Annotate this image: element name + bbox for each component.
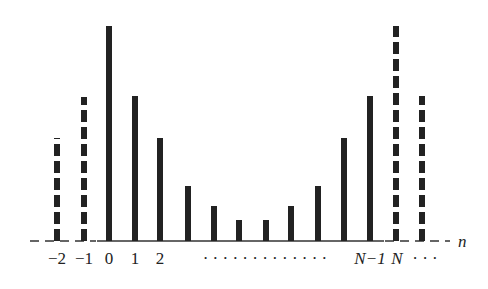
tick-label: · · · · · · · · · · · · · bbox=[203, 249, 328, 268]
axis-label-n: n bbox=[458, 232, 467, 251]
tick-label: 0 bbox=[105, 249, 114, 268]
periodic-sequence-diagram: −2−1012· · · · · · · · · · · · ·N−1N· · … bbox=[0, 0, 488, 289]
tick-label: −2 bbox=[48, 249, 66, 268]
tick-label: · · · bbox=[412, 249, 437, 268]
tick-label: N bbox=[390, 249, 404, 268]
tick-label: −1 bbox=[75, 249, 93, 268]
tick-label: 2 bbox=[156, 249, 165, 268]
tick-label: 1 bbox=[131, 249, 140, 268]
tick-label: N−1 bbox=[353, 249, 385, 268]
